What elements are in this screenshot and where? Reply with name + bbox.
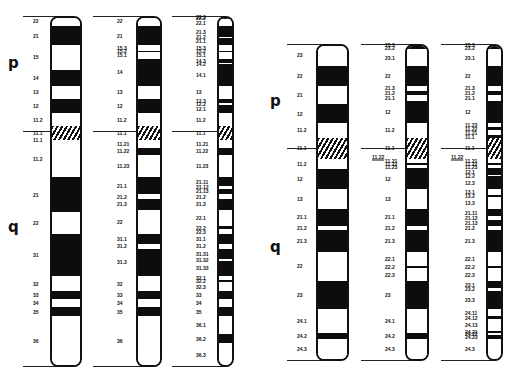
band-label: 21.3 (196, 202, 206, 207)
band-label: 22.2 (465, 264, 475, 269)
band-label: 24.3 (385, 347, 395, 352)
band-label: 33 (117, 293, 123, 298)
band-label: 21.1 (385, 215, 395, 220)
band-label: 23.2 (465, 45, 475, 50)
band-label: 36 (33, 339, 39, 344)
band-21-11 (219, 177, 232, 186)
chromosome-body (486, 44, 503, 361)
band-11-22 (219, 148, 232, 155)
band-label: 21.3 (385, 239, 395, 244)
band-label: 31.2 (117, 244, 127, 249)
band-label: 22 (465, 73, 471, 78)
band-label: 35 (33, 309, 39, 314)
band-35 (219, 307, 232, 316)
band-label: 32 (117, 281, 123, 286)
band-22 (318, 252, 347, 281)
band-label: 31.32 (196, 257, 209, 262)
band-11-2 (407, 123, 427, 138)
band-21-3 (318, 230, 347, 251)
band-label: 22.3 (196, 229, 206, 234)
band-label: 11.1 (465, 134, 474, 139)
band-36 (52, 316, 80, 366)
band-label: 11.1 (196, 131, 205, 136)
band-callout-label: 11.22 (451, 155, 463, 160)
band-22-3 (488, 268, 501, 281)
band-label: 11.1 (117, 131, 126, 136)
band-label: 22.2 (385, 264, 395, 269)
band-22-1 (219, 210, 232, 226)
band-label: 15 (33, 55, 39, 60)
band-label: 36.3 (196, 352, 206, 357)
band-11-1 (488, 138, 501, 158)
band-12-1 (488, 168, 501, 175)
band-label: 24.13 (465, 322, 478, 327)
band-label: 21 (117, 33, 123, 38)
band-24-1 (407, 309, 427, 333)
band-label: 11.2 (33, 156, 42, 161)
band-23 (318, 281, 347, 309)
band-label: 23 (385, 293, 391, 298)
band-label: 21.3 (465, 239, 475, 244)
band-33 (52, 291, 80, 299)
band-label: 11.22 (117, 149, 129, 154)
band-15 (52, 45, 80, 70)
band-label: 22 (33, 221, 39, 226)
band-22 (318, 66, 347, 86)
band-11-2 (318, 123, 347, 138)
band-label: 15.1 (117, 53, 127, 58)
band-12 (138, 99, 160, 113)
band-label: 13.3 (465, 201, 475, 206)
band-13 (407, 189, 427, 209)
band-label: 22.3 (465, 272, 475, 277)
band-22-1 (219, 19, 232, 26)
band-label: 21.1 (297, 215, 307, 220)
band-11-2 (219, 113, 232, 127)
band-label: 24.12 (465, 315, 478, 320)
band-label: 12 (385, 176, 391, 181)
band-34 (52, 299, 80, 307)
band-label: 12 (297, 177, 303, 182)
band-label: 21.1 (465, 96, 475, 101)
band-label: 34 (117, 301, 123, 306)
band-label: 14 (33, 76, 39, 81)
band-22 (52, 16, 80, 26)
band-21-1 (407, 209, 427, 225)
p-arm-label: p (8, 54, 19, 72)
band-label: 21.1 (117, 183, 127, 188)
band-23-3 (488, 291, 501, 310)
band-13 (318, 189, 347, 209)
band-label: 21.3 (117, 202, 127, 207)
band-label: 11.2 (385, 128, 394, 133)
band-label: 36 (117, 339, 123, 344)
band-31-33 (219, 261, 232, 276)
band-21-11 (488, 209, 501, 216)
band-label: 22.1 (196, 215, 206, 220)
band-12 (318, 104, 347, 123)
band-32-3 (219, 282, 232, 291)
band-label: 21.2 (196, 194, 206, 199)
band-11-22 (138, 148, 160, 155)
band-label: 12.2 (465, 173, 475, 178)
band-label: 22.3 (385, 272, 395, 277)
band-label: 23.3 (465, 297, 475, 302)
band-36-2 (219, 334, 232, 343)
band-label: 24.3 (297, 347, 307, 352)
band-22-1 (407, 252, 427, 266)
band-21-3 (219, 199, 232, 210)
band-label: 22 (297, 73, 303, 78)
band-11-1 (318, 138, 347, 158)
band-label: 34 (196, 301, 202, 306)
band-33 (219, 291, 232, 299)
band-label: 11.2 (297, 128, 306, 133)
band-35 (52, 307, 80, 316)
band-11-2 (52, 140, 80, 177)
band-label: 21.1 (196, 39, 206, 44)
band-label: 22 (297, 264, 303, 269)
band-22 (407, 66, 427, 86)
q-arm-label: q (270, 238, 281, 256)
band-12 (407, 101, 427, 123)
band-label: 11.2 (196, 117, 205, 122)
band-23-1 (407, 49, 427, 65)
band-21-3 (488, 230, 501, 251)
band-12-3 (488, 176, 501, 189)
